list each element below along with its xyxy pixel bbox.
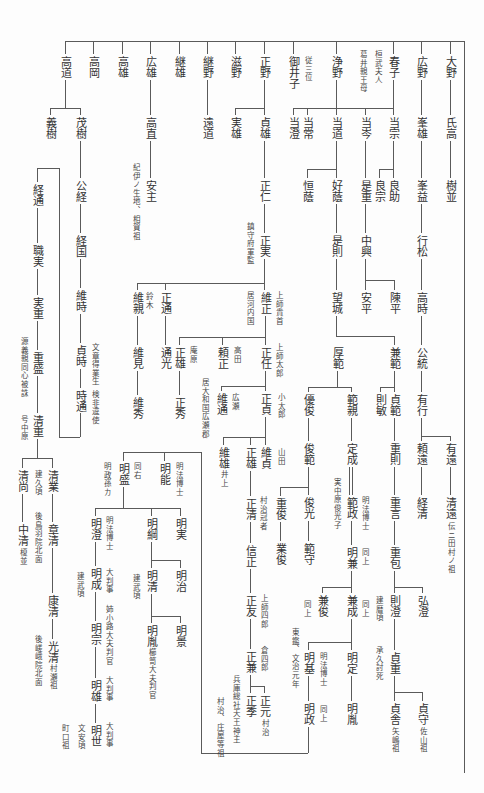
person-node: 範政	[346, 497, 357, 519]
person-node: 清尚	[17, 470, 28, 492]
person-node: 正貞	[260, 393, 271, 415]
annotation-note: 広瀬	[230, 393, 238, 410]
person-node: 正友	[245, 595, 256, 617]
person-node: 高雄	[117, 56, 128, 78]
person-node: 正野	[259, 56, 270, 78]
person-node: 通光	[160, 347, 171, 369]
person-node: 広雄	[145, 56, 156, 78]
person-node: 正季	[245, 695, 256, 717]
annotation-note: 居河内国	[245, 291, 253, 325]
person-node: 公経	[75, 180, 86, 202]
person-node: 重言	[389, 497, 400, 519]
person-node: 義樹	[45, 117, 56, 139]
person-node: 高岡	[88, 56, 99, 78]
person-node: 当澄	[288, 117, 299, 139]
annotation-note: 桓武夫人	[373, 50, 381, 84]
person-node: 広野	[416, 56, 427, 78]
person-node: 明成	[90, 568, 101, 590]
annotation-note: 号中原	[19, 415, 27, 441]
annotation-note: 大判事	[104, 568, 112, 594]
annotation-note: 村治	[260, 719, 268, 736]
person-node: 維貞	[260, 447, 271, 469]
person-node: 貞範	[389, 394, 400, 416]
person-node: 明景	[175, 625, 186, 647]
person-node: 正通	[160, 292, 171, 314]
annotation-note: 姉小路大夫判官	[104, 605, 112, 665]
annotation-note: 同上	[318, 705, 326, 722]
person-node: 正雄	[245, 447, 256, 469]
person-node: 有遠	[445, 443, 456, 465]
annotation-note: 建久頃	[33, 470, 41, 496]
person-node: 滋野	[230, 56, 241, 78]
person-node: 正清	[245, 498, 256, 520]
person-node: 重包	[389, 547, 400, 569]
person-node: 経通	[32, 184, 43, 206]
person-node: 明治	[175, 570, 186, 592]
person-node: 俊範	[303, 443, 314, 465]
annotation-note: 後鳥羽院北面	[33, 512, 41, 564]
person-node: 信正	[245, 545, 256, 567]
person-node: 業俊	[275, 543, 286, 565]
annotation-note: 建武頃	[131, 574, 139, 600]
person-node: 明澄	[90, 518, 101, 540]
person-node: 正実	[259, 235, 270, 257]
annotation-note: 兵庫総社天王神主	[231, 675, 239, 744]
annotation-note: 明法博士	[318, 652, 326, 686]
person-node: 明能	[159, 463, 170, 485]
person-node: 行松	[416, 235, 427, 257]
annotation-note: 検非違使	[90, 390, 98, 424]
person-node: 明綱	[146, 518, 157, 540]
person-node: 定成	[346, 443, 357, 465]
annotation-note: 伝ニ田村ノ祖	[446, 522, 454, 574]
person-node: 樹並	[445, 180, 456, 202]
annotation-note: 居大和国広瀬郡	[200, 378, 208, 438]
person-node: 明盛	[118, 463, 129, 485]
person-node: 公統	[416, 347, 427, 369]
annotation-note: 建暦頃	[374, 596, 382, 622]
person-node: 明基	[303, 652, 314, 674]
annotation-note: 山田	[276, 448, 284, 465]
annotation-note: 建武頃	[75, 572, 83, 598]
person-node: 正秀	[174, 397, 185, 419]
annotation-note: 明法博士	[174, 462, 182, 496]
annotation-note: 井上	[219, 470, 227, 487]
annotation-note: 東鑑、文治元年	[290, 628, 298, 688]
annotation-note: 町口祖	[60, 724, 68, 750]
person-node: 峯益	[416, 180, 427, 202]
person-node: 高直	[145, 117, 156, 139]
person-node: 則敏	[375, 394, 386, 416]
annotation-note: 同上	[302, 600, 310, 617]
person-node: 正元	[259, 695, 270, 717]
person-node: 明実	[175, 518, 186, 540]
person-node: 正任	[260, 347, 271, 369]
person-node: 中興	[360, 235, 371, 257]
person-node: 明宗	[90, 623, 101, 645]
person-node: 重俊	[275, 498, 286, 520]
person-node: 優俊	[303, 394, 314, 416]
person-node: 明雄	[90, 680, 101, 702]
person-node: 経国	[75, 235, 86, 257]
person-node: 安平	[360, 292, 371, 314]
genealogy-diagram: 高道高岡高雄広雄継雄継野滋野正野御井子浄野春子広野大野義樹茂樹高直遠道実雄貞雄当…	[0, 0, 484, 793]
annotation-note: 文章得業生	[90, 343, 98, 386]
person-node: 時通	[75, 390, 86, 412]
person-node: 御井子	[288, 56, 299, 89]
person-node: 重則	[389, 443, 400, 465]
person-node: 明世	[90, 725, 101, 747]
annotation-note: 村瀬祖	[48, 664, 56, 690]
person-node: 明政	[303, 703, 314, 725]
annotation-note: 明法博士	[104, 516, 112, 550]
person-node: 好蔭	[331, 180, 342, 202]
person-node: 貞時	[75, 345, 86, 367]
person-node: 維時	[75, 290, 86, 312]
person-node: 春子	[388, 56, 399, 78]
person-node: 浄野	[331, 56, 342, 78]
person-node: 継雄	[174, 56, 185, 78]
person-node: 遠道	[202, 117, 213, 139]
person-node: 実雄	[230, 117, 241, 139]
annotation-note: 源義親同心被誅	[19, 337, 27, 397]
annotation-note: 上師貴首	[274, 291, 282, 325]
person-node: 経清	[416, 497, 427, 519]
person-node: 良宗	[374, 180, 385, 202]
person-node: 継野	[202, 56, 213, 78]
